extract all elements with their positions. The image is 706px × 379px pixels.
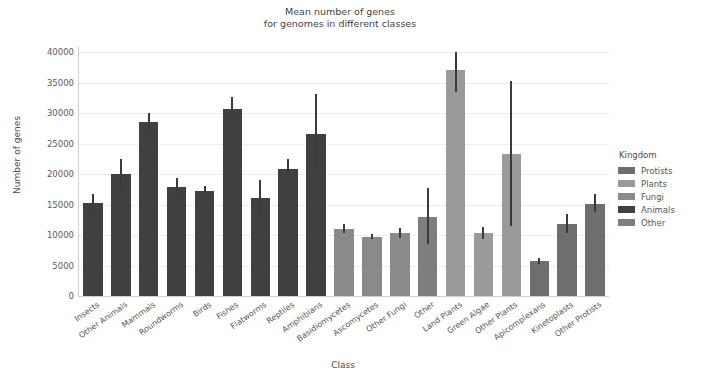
error-bar bbox=[594, 194, 596, 212]
legend-swatch-icon bbox=[618, 206, 635, 213]
y-tick-label: 5000 bbox=[28, 261, 74, 271]
bar[interactable] bbox=[446, 70, 466, 296]
legend-item[interactable]: Other bbox=[618, 216, 702, 229]
error-bar bbox=[455, 52, 457, 92]
legend-item[interactable]: Fungi bbox=[618, 190, 702, 203]
legend-label: Other bbox=[641, 218, 665, 228]
bar[interactable] bbox=[585, 204, 605, 296]
bar[interactable] bbox=[334, 229, 354, 296]
gridline bbox=[79, 83, 609, 84]
bar[interactable] bbox=[223, 109, 243, 296]
error-bar bbox=[148, 113, 150, 129]
error-bar bbox=[259, 180, 261, 218]
y-tick-label: 35000 bbox=[28, 78, 74, 88]
legend-item[interactable]: Plants bbox=[618, 177, 702, 190]
gridline bbox=[79, 52, 609, 53]
error-bar bbox=[482, 227, 484, 239]
error-bar bbox=[427, 188, 429, 243]
chart-title: Mean number of genes for genomes in diff… bbox=[70, 6, 610, 30]
y-tick-label: 30000 bbox=[28, 108, 74, 118]
legend-label: Animals bbox=[641, 205, 675, 215]
error-bar bbox=[343, 224, 345, 233]
error-bar bbox=[510, 81, 512, 226]
y-tick-label: 0 bbox=[28, 291, 74, 301]
bar[interactable] bbox=[139, 122, 159, 296]
legend-swatch-icon bbox=[618, 193, 635, 200]
legend-label: Plants bbox=[641, 179, 667, 189]
legend-item[interactable]: Animals bbox=[618, 203, 702, 216]
error-bar bbox=[287, 159, 289, 179]
y-tick-label: 15000 bbox=[28, 200, 74, 210]
chart-figure: Mean number of genes for genomes in diff… bbox=[0, 0, 706, 379]
gridline bbox=[79, 174, 609, 175]
bar[interactable] bbox=[83, 203, 103, 296]
bar[interactable] bbox=[167, 187, 187, 296]
bar[interactable] bbox=[390, 233, 410, 296]
y-axis-ticks: 0500010000150002000025000300003500040000 bbox=[22, 46, 74, 296]
error-bar bbox=[399, 228, 401, 238]
plot-area bbox=[78, 46, 609, 297]
y-tick-label: 20000 bbox=[28, 169, 74, 179]
legend-label: Protists bbox=[641, 166, 672, 176]
bar[interactable] bbox=[195, 191, 215, 296]
bar[interactable] bbox=[111, 174, 131, 296]
legend-item[interactable]: Protists bbox=[618, 164, 702, 177]
bar[interactable] bbox=[474, 233, 494, 296]
y-tick-label: 25000 bbox=[28, 139, 74, 149]
legend-label: Fungi bbox=[641, 192, 664, 202]
error-bar bbox=[176, 178, 178, 196]
legend-swatch-icon bbox=[618, 180, 635, 187]
legend-title: Kingdom bbox=[618, 150, 702, 160]
bar[interactable] bbox=[278, 169, 298, 296]
x-axis-ticks: InsectsOther AnimalsMammalsRoundwormsBir… bbox=[78, 300, 608, 358]
error-bar bbox=[315, 94, 317, 167]
legend-rows: ProtistsPlantsFungiAnimalsOther bbox=[618, 164, 702, 229]
error-bar bbox=[120, 159, 122, 189]
y-tick-label: 40000 bbox=[28, 47, 74, 57]
y-axis-label: Number of genes bbox=[12, 100, 22, 210]
error-bar bbox=[92, 194, 94, 210]
error-bar bbox=[371, 234, 373, 239]
legend-swatch-icon bbox=[618, 167, 635, 174]
bar[interactable] bbox=[557, 224, 577, 296]
legend-swatch-icon bbox=[618, 219, 635, 226]
error-bar bbox=[231, 97, 233, 120]
gridline bbox=[79, 144, 609, 145]
error-bar bbox=[538, 258, 540, 265]
error-bar bbox=[566, 214, 568, 233]
y-tick-label: 10000 bbox=[28, 230, 74, 240]
gridline bbox=[79, 113, 609, 114]
x-axis-label: Class bbox=[78, 360, 608, 370]
bar[interactable] bbox=[530, 261, 550, 296]
legend: Kingdom ProtistsPlantsFungiAnimalsOther bbox=[618, 150, 702, 229]
bar[interactable] bbox=[362, 237, 382, 296]
error-bar bbox=[204, 186, 206, 195]
gridline bbox=[79, 205, 609, 206]
